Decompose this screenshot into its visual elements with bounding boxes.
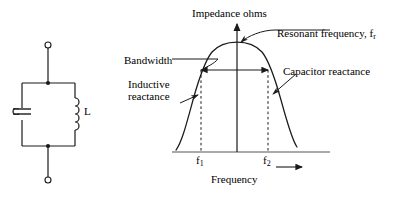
inductor-coil-icon [75,98,79,130]
inductive-reactance-line2: reactance [128,90,170,102]
inductive-reactance-line1: Inductive [128,78,170,90]
tick-label-f1: f1 [196,154,204,168]
bandwidth-label: Bandwidth [124,54,172,66]
terminal-bottom-icon [45,177,51,183]
plot-area [172,24,330,167]
capacitor-reactance-label: Capacitor reactance [283,65,370,77]
y-axis-label: Impedance ohms [192,7,267,19]
inductive-reactance-label: Inductivereactance [128,78,190,102]
figure-container: Impedance ohms Resonant frequency, fr Ba… [0,0,396,197]
tick-label-f2: f2 [263,154,271,168]
tick-label-f1-subscript: 1 [200,159,204,168]
circuit-diagram [13,42,79,183]
x-axis-label: Frequency [211,173,257,185]
resonant-frequency-label: Resonant frequency, fr [277,27,376,41]
tick-label-f2-subscript: 2 [267,159,271,168]
terminal-top-icon [45,42,51,48]
resonant-frequency-text: Resonant frequency, f [277,27,373,39]
inductor-label: L [84,105,91,117]
bandwidth-leader [172,59,218,69]
resonant-frequency-subscript: r [373,32,376,41]
capacitor-label: C [12,105,19,117]
